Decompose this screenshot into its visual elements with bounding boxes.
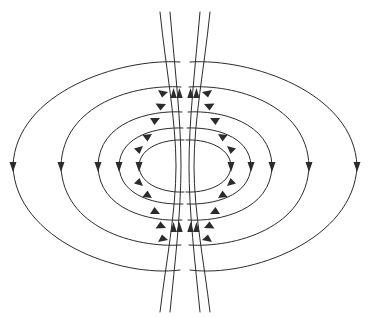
- arrow-right-upper-3: [210, 118, 220, 125]
- arrow-right-upper-4: [218, 134, 228, 142]
- arrow-right-lower-1: [202, 235, 212, 243]
- arrow-left-lower-4: [143, 191, 153, 199]
- magnetic-field-diagram: Magnetic Dipole Field Lines: [0, 0, 370, 318]
- field-line-left-5: [139, 140, 184, 192]
- arrow-left-lower-5: [134, 178, 143, 186]
- arrow-left-upper-5: [134, 146, 143, 154]
- arrow-right-outer-3: [269, 162, 276, 172]
- arrow-left-upper-3: [150, 118, 160, 125]
- arrow-right-outer-4: [248, 162, 255, 172]
- arrow-left-upper-4: [143, 134, 153, 142]
- arrow-right-outer-2: [306, 162, 313, 172]
- arrow-left-outer-4: [116, 162, 123, 172]
- right-lobe-group: [186, 62, 361, 271]
- arrow-right-upper-5: [227, 146, 236, 154]
- arrow-right-upper-2: [204, 104, 215, 111]
- arrow-left-outer-5: [136, 162, 143, 172]
- arrow-axial-up-6: [176, 222, 182, 232]
- arrow-right-lower-2: [204, 222, 215, 229]
- field-line-right-4: [187, 128, 251, 204]
- left-lobe-group: [10, 62, 185, 271]
- arrow-right-outer-1: [354, 162, 361, 172]
- arrow-left-lower-2: [156, 222, 167, 229]
- arrow-left-lower-1: [158, 235, 168, 243]
- arrow-right-lower-3: [210, 207, 220, 214]
- field-line-left-4: [119, 128, 183, 204]
- arrow-axial-up-7: [187, 222, 193, 232]
- arrow-left-upper-1: [158, 90, 168, 98]
- field-line-canvas: [0, 0, 370, 318]
- arrow-left-lower-3: [150, 207, 160, 214]
- arrow-left-outer-1: [10, 162, 17, 172]
- arrow-left-outer-3: [95, 162, 102, 172]
- arrow-axial-up-1: [171, 88, 177, 98]
- arrow-right-lower-4: [218, 191, 228, 199]
- axial-lines-group: [160, 12, 210, 312]
- field-line-right-5: [186, 140, 231, 192]
- arrow-right-lower-5: [227, 178, 236, 186]
- arrow-axial-up-4: [193, 88, 199, 98]
- arrow-right-upper-1: [202, 90, 212, 98]
- arrow-left-upper-2: [156, 104, 167, 111]
- arrow-left-outer-2: [58, 162, 65, 172]
- arrow-right-outer-5: [228, 162, 235, 172]
